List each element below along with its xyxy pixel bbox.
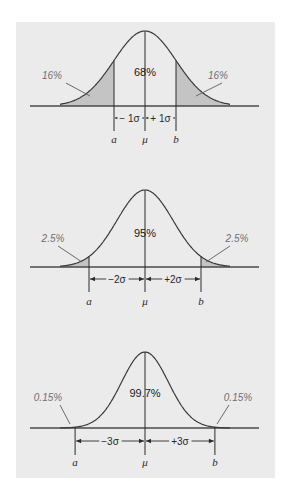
right-tail-percent-label: 2.5% bbox=[225, 233, 249, 244]
chart-one-sigma: 68% 16% 16% − 1σ + 1σ a μ b bbox=[30, 31, 259, 145]
left-sigma-label: −3σ bbox=[101, 436, 119, 447]
mean-label: μ bbox=[141, 133, 148, 145]
mean-label: μ bbox=[141, 295, 148, 307]
left-tail-area bbox=[60, 61, 114, 107]
left-tail-percent-label: 0.15% bbox=[34, 392, 62, 403]
left-tail-pointer bbox=[58, 246, 82, 262]
chart-three-sigma: 99.7% 0.15% 0.15% −3σ +3σ a μ b bbox=[30, 352, 259, 468]
right-sigma-label: + 1σ bbox=[150, 113, 171, 124]
center-percent-label: 95% bbox=[134, 227, 156, 239]
upper-bound-label: b bbox=[198, 295, 204, 307]
lower-bound-label: a bbox=[86, 295, 92, 307]
right-tail-pointer bbox=[217, 405, 229, 424]
center-percent-label: 99.7% bbox=[129, 387, 160, 399]
lower-bound-label: a bbox=[72, 456, 78, 468]
lower-bound-label: a bbox=[111, 133, 117, 145]
left-sigma-label: − 1σ bbox=[119, 113, 140, 124]
right-sigma-label: +3σ bbox=[171, 436, 189, 447]
upper-bound-label: b bbox=[212, 456, 218, 468]
right-tail-pointer bbox=[196, 83, 222, 96]
left-tail-pointer bbox=[60, 405, 70, 424]
chart-two-sigma: 95% 2.5% 2.5% −2σ +2σ a μ b bbox=[30, 190, 259, 307]
left-tail-percent-label: 16% bbox=[42, 70, 62, 81]
upper-bound-label: b bbox=[173, 133, 179, 145]
right-tail-pointer bbox=[206, 246, 230, 262]
mean-label: μ bbox=[141, 456, 148, 468]
right-tail-percent-label: 16% bbox=[208, 70, 228, 81]
left-tail-pointer bbox=[66, 83, 90, 96]
left-sigma-label: −2σ bbox=[108, 274, 126, 285]
right-tail-percent-label: 0.15% bbox=[224, 392, 252, 403]
left-tail-percent-label: 2.5% bbox=[41, 233, 65, 244]
center-percent-label: 68% bbox=[134, 66, 156, 78]
right-sigma-label: +2σ bbox=[164, 274, 182, 285]
